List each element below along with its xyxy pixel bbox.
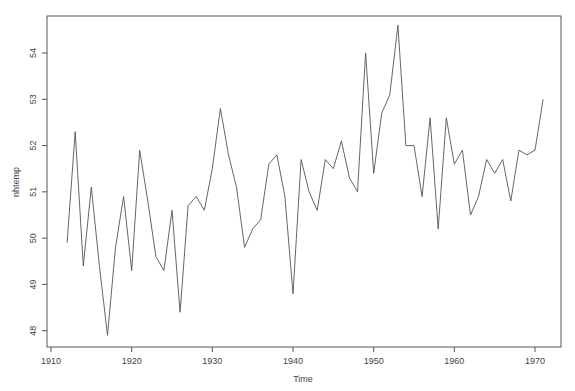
line-chart: 1910192019301940195019601970 48495051525… <box>0 0 575 391</box>
y-tick-label: 52 <box>28 141 38 151</box>
x-tick-label: 1930 <box>202 356 222 366</box>
y-axis: 48495051525354 <box>28 48 47 336</box>
x-tick-label: 1960 <box>444 356 464 366</box>
x-tick-label: 1910 <box>41 356 61 366</box>
x-tick-label: 1920 <box>122 356 142 366</box>
x-axis: 1910192019301940195019601970 <box>41 347 545 366</box>
y-tick-label: 48 <box>28 326 38 336</box>
series-line-nhtemp <box>67 25 543 335</box>
y-tick-label: 49 <box>28 279 38 289</box>
y-tick-label: 50 <box>28 233 38 243</box>
x-tick-label: 1950 <box>364 356 384 366</box>
y-tick-label: 51 <box>28 187 38 197</box>
y-axis-label: nhtemp <box>11 167 21 197</box>
x-tick-label: 1940 <box>283 356 303 366</box>
y-tick-label: 54 <box>28 48 38 58</box>
x-tick-label: 1970 <box>525 356 545 366</box>
x-axis-label: Time <box>293 374 313 384</box>
plot-frame <box>47 16 561 347</box>
y-tick-label: 53 <box>28 94 38 104</box>
